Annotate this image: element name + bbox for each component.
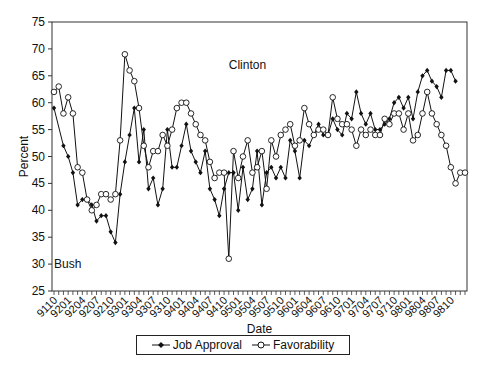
data-point-favorability — [254, 164, 260, 170]
data-point-job-approval — [236, 208, 240, 213]
data-point-job-approval — [123, 159, 127, 164]
data-point-job-approval — [439, 95, 443, 100]
annotation-bush: Bush — [54, 257, 81, 271]
data-point-job-approval — [401, 105, 405, 110]
data-point-favorability — [146, 164, 152, 170]
data-point-favorability — [169, 127, 175, 133]
data-point-favorability — [434, 121, 440, 127]
data-point-favorability — [155, 148, 161, 154]
open-circle-marker-icon — [252, 340, 270, 350]
legend-label-favorability: Favorability — [273, 338, 334, 352]
y-tick-label: 25 — [32, 284, 46, 298]
data-point-favorability — [302, 105, 308, 111]
y-tick-label: 60 — [32, 96, 46, 110]
data-point-favorability — [420, 111, 426, 117]
data-point-favorability — [117, 138, 123, 144]
legend-label-job-approval: Job Approval — [173, 338, 242, 352]
data-point-job-approval — [151, 175, 155, 180]
data-point-favorability — [320, 127, 326, 133]
data-point-favorability — [396, 111, 402, 117]
data-point-favorability — [231, 148, 237, 154]
x-axis-label: Date — [247, 322, 273, 336]
data-point-favorability — [382, 116, 388, 122]
data-point-job-approval — [406, 95, 410, 100]
data-point-favorability — [245, 138, 251, 144]
data-point-job-approval — [359, 111, 363, 116]
data-point-job-approval — [146, 186, 150, 191]
data-point-favorability — [259, 148, 265, 154]
data-point-job-approval — [293, 149, 297, 154]
y-tick-label: 40 — [32, 203, 46, 217]
data-point-favorability — [273, 154, 279, 160]
data-point-favorability — [80, 170, 86, 176]
data-point-favorability — [160, 132, 166, 138]
data-point-job-approval — [137, 159, 141, 164]
data-point-favorability — [349, 127, 355, 133]
data-point-favorability — [264, 186, 270, 192]
data-point-favorability — [221, 170, 227, 176]
data-point-favorability — [387, 121, 393, 127]
y-tick-label: 75 — [32, 15, 46, 29]
y-tick-label: 50 — [32, 150, 46, 164]
data-point-job-approval — [156, 202, 160, 207]
data-point-job-approval — [283, 175, 287, 180]
line-chart: 2530354045505560657075911092019204920792… — [0, 0, 488, 371]
data-point-favorability — [193, 121, 199, 127]
data-point-favorability — [70, 111, 76, 117]
data-point-favorability — [424, 89, 430, 95]
data-point-favorability — [235, 175, 241, 181]
data-point-favorability — [401, 127, 407, 133]
data-point-favorability — [61, 111, 67, 117]
data-point-job-approval — [104, 213, 108, 218]
legend-item-job-approval: Job Approval — [152, 338, 242, 352]
data-point-favorability — [406, 111, 412, 117]
legend-item-favorability: Favorability — [252, 338, 334, 352]
data-point-favorability — [132, 78, 138, 84]
annotation-clinton: Clinton — [229, 58, 266, 72]
data-point-favorability — [410, 138, 416, 144]
y-tick-label: 45 — [32, 176, 46, 190]
data-point-favorability — [448, 164, 454, 170]
series-line-favorability — [54, 54, 465, 258]
data-point-favorability — [136, 105, 142, 111]
data-point-favorability — [65, 95, 71, 101]
data-point-job-approval — [250, 186, 254, 191]
data-point-job-approval — [189, 149, 193, 154]
data-point-favorability — [174, 105, 180, 111]
data-point-job-approval — [444, 68, 448, 73]
data-point-favorability — [250, 170, 256, 176]
data-point-favorability — [283, 127, 289, 133]
data-point-favorability — [278, 132, 284, 138]
data-point-job-approval — [279, 165, 283, 170]
data-point-job-approval — [208, 186, 212, 191]
data-point-favorability — [377, 132, 383, 138]
data-point-favorability — [311, 132, 317, 138]
data-point-favorability — [84, 197, 90, 203]
data-point-job-approval — [179, 143, 183, 148]
data-point-job-approval — [364, 122, 368, 127]
data-point-favorability — [141, 143, 147, 149]
y-axis-label: Percent — [17, 135, 31, 177]
data-point-favorability — [122, 51, 128, 57]
data-point-favorability — [113, 191, 119, 197]
data-point-favorability — [94, 202, 100, 208]
data-point-favorability — [207, 159, 213, 165]
data-point-favorability — [354, 143, 360, 149]
data-point-favorability — [51, 89, 57, 95]
data-point-job-approval — [260, 202, 264, 207]
data-point-job-approval — [127, 132, 131, 137]
data-point-job-approval — [71, 170, 75, 175]
data-point-favorability — [443, 143, 449, 149]
data-point-favorability — [439, 132, 445, 138]
data-point-job-approval — [61, 143, 65, 148]
data-point-job-approval — [416, 89, 420, 94]
data-point-job-approval — [160, 186, 164, 191]
data-point-job-approval — [175, 165, 179, 170]
data-point-favorability — [269, 138, 275, 144]
data-point-favorability — [429, 111, 435, 117]
data-point-job-approval — [184, 122, 188, 127]
data-point-favorability — [363, 132, 369, 138]
data-point-favorability — [127, 68, 133, 74]
chart-legend: Job Approval Favorability — [136, 335, 350, 355]
data-point-job-approval — [113, 240, 117, 245]
